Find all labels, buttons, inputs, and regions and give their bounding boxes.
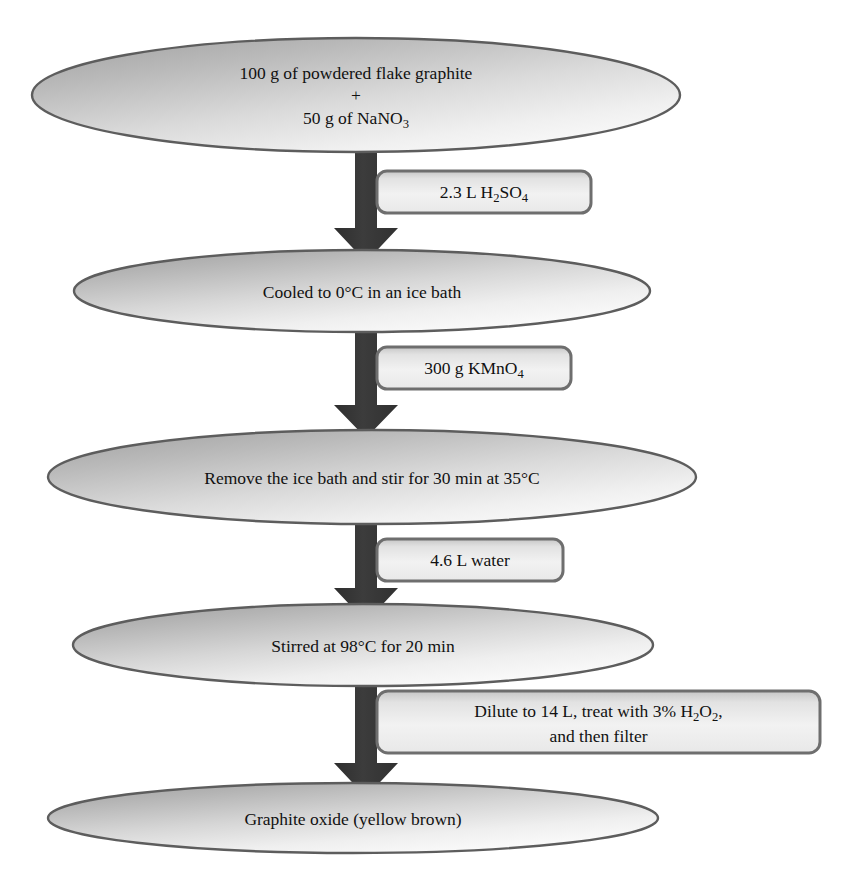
stir-35c-step-node[interactable] — [48, 430, 696, 524]
cooling-step-node[interactable] — [74, 250, 650, 332]
reagent-label-sulfuric-acid[interactable] — [377, 171, 591, 213]
flowchart-canvas: 100 g of powdered flake graphite + 50 g … — [0, 0, 852, 883]
reagent-label-water[interactable] — [377, 539, 563, 581]
stir-98c-step-node[interactable] — [73, 604, 653, 686]
reagent-label-potassium-permanganate[interactable] — [377, 347, 571, 389]
reagent-label-dilute-and-filter[interactable] — [377, 691, 820, 753]
product-node[interactable] — [48, 783, 658, 853]
flowchart-shapes — [0, 0, 852, 883]
starting-materials-node[interactable] — [32, 38, 680, 152]
